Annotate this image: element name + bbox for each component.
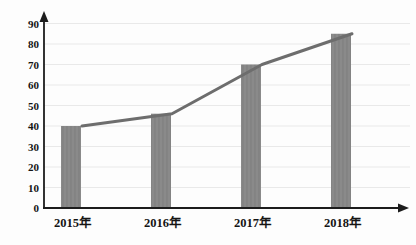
chart-canvas: 01020304050607080902015年2016年2017年2018年 — [0, 0, 416, 245]
bar-2016年 — [151, 114, 171, 208]
trend-line — [82, 34, 352, 126]
bar-line-combo-chart: 01020304050607080902015年2016年2017年2018年 — [0, 0, 416, 245]
y-axis-arrow-icon — [40, 11, 49, 22]
x-category-label-2016年: 2016年 — [144, 215, 182, 230]
x-category-label-2017年: 2017年 — [234, 215, 272, 230]
y-tick-label-50: 50 — [28, 100, 40, 112]
y-tick-label-70: 70 — [28, 59, 40, 71]
x-category-label-2018年: 2018年 — [324, 215, 362, 230]
y-tick-label-0: 0 — [34, 202, 40, 214]
y-tick-label-90: 90 — [28, 18, 40, 30]
bar-2017年 — [241, 65, 261, 209]
y-tick-label-60: 60 — [28, 79, 40, 91]
x-axis-arrow-icon — [398, 204, 409, 213]
y-tick-label-80: 80 — [28, 38, 40, 50]
y-tick-label-20: 20 — [28, 161, 40, 173]
bar-2015年 — [61, 126, 81, 208]
x-category-label-2015年: 2015年 — [54, 215, 92, 230]
y-tick-label-40: 40 — [28, 120, 40, 132]
bar-2018年 — [331, 34, 351, 208]
y-tick-label-10: 10 — [28, 182, 40, 194]
y-tick-label-30: 30 — [28, 141, 40, 153]
